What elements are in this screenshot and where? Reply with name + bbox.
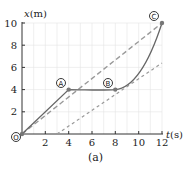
- svg-text:A: A: [59, 80, 64, 88]
- svg-text:2: 2: [42, 137, 48, 148]
- x-tick-labels: 2 4 6 8 10 12: [42, 137, 168, 148]
- y-tick-labels: 10 8 6 4 2: [4, 18, 17, 118]
- svg-text:4: 4: [11, 84, 17, 95]
- svg-text:6: 6: [89, 137, 95, 148]
- tangent-line-b: [57, 63, 162, 134]
- point-a-marker: A: [57, 79, 66, 88]
- point-b-marker: B: [104, 79, 113, 88]
- svg-text:B: B: [106, 80, 111, 88]
- position-time-graph: 10 8 6 4 2 2 4 6 8 10 12 x(m) t(s) O A B…: [0, 0, 191, 169]
- svg-text:6: 6: [11, 62, 17, 73]
- point-o-marker: O: [12, 133, 21, 142]
- svg-text:4: 4: [66, 137, 72, 148]
- svg-text:10: 10: [132, 137, 145, 148]
- svg-text:8: 8: [11, 40, 17, 51]
- figure-caption: (a): [0, 151, 191, 164]
- y-axis-label: x(m): [24, 8, 47, 19]
- point-c-marker: C: [150, 12, 159, 21]
- svg-text:O: O: [13, 134, 19, 142]
- svg-text:8: 8: [112, 137, 118, 148]
- svg-text:C: C: [152, 13, 157, 21]
- svg-text:10: 10: [4, 18, 17, 29]
- svg-text:2: 2: [11, 106, 17, 117]
- x-axis-label: t(s): [166, 129, 183, 140]
